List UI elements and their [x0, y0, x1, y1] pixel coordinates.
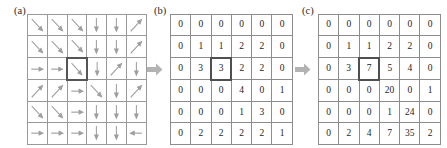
arrow-cell — [28, 80, 48, 102]
number-cell: 2 — [400, 36, 420, 58]
arrow-down-icon — [127, 59, 146, 79]
number-cell: 24 — [400, 102, 420, 123]
cell-value: 4 — [360, 129, 379, 139]
number-cell: 4 — [400, 58, 420, 80]
number-cell: 0 — [339, 80, 359, 102]
arrow-cell — [87, 102, 107, 123]
cell-value: 0 — [191, 86, 210, 96]
number-cell: 0 — [211, 102, 231, 123]
number-cell: 0 — [319, 36, 339, 58]
arrow-cell — [87, 58, 107, 80]
number-cell: 0 — [171, 58, 191, 80]
number-cell: 1 — [272, 80, 292, 102]
number-grid-row: 011220 — [319, 36, 441, 58]
cell-value: 5 — [380, 64, 399, 74]
number-grid-c: 000000011220037540000200100012400247352 — [318, 14, 441, 145]
number-cell: 0 — [171, 102, 191, 123]
cell-value: 1 — [360, 42, 379, 52]
cell-value: 2 — [252, 42, 271, 52]
cell-value: 2 — [400, 42, 419, 52]
arrow-cell — [67, 36, 87, 58]
cell-value: 0 — [252, 20, 271, 30]
arrow-grid-row — [28, 58, 147, 80]
arrow-cell — [107, 15, 127, 36]
cell-value: 0 — [252, 86, 271, 96]
arrow-cell — [47, 123, 67, 144]
number-cell: 0 — [191, 102, 211, 123]
cell-value: 0 — [272, 108, 291, 118]
cell-value: 1 — [191, 42, 210, 52]
arrow-down-icon — [87, 102, 106, 122]
cell-value: 0 — [319, 64, 338, 74]
number-cell: 0 — [211, 80, 231, 102]
number-grid-row: 0001240 — [319, 102, 441, 123]
cell-value: 3 — [191, 64, 210, 74]
cell-value: 0 — [272, 42, 291, 52]
panel-a: (a) — [0, 0, 148, 148]
cell-value: 4 — [400, 64, 419, 74]
number-cell: 2 — [231, 36, 251, 58]
arrow-cell — [87, 36, 107, 58]
arrow-down-icon — [127, 102, 146, 122]
arrow-cell — [126, 15, 146, 36]
cell-value: 1 — [232, 108, 251, 118]
cell-value: 0 — [171, 20, 190, 30]
arrow-grid-row — [28, 80, 147, 102]
number-grid-b-body: 000000011220033220000401000130022221 — [171, 15, 293, 145]
arrow-cell-highlighted — [67, 58, 87, 80]
cell-value: 20 — [380, 86, 399, 96]
cell-value: 0 — [400, 20, 419, 30]
number-cell: 0 — [379, 15, 399, 36]
cell-value: 2 — [339, 129, 358, 139]
arrow-cell — [28, 15, 48, 36]
panel-b: (b) 000000011220033220000401000130022221 — [148, 0, 298, 148]
arrow-cell — [126, 36, 146, 58]
arrow-cell — [67, 102, 87, 123]
cell-value: 0 — [319, 42, 338, 52]
number-cell: 0 — [359, 15, 379, 36]
cell-value: 0 — [360, 86, 379, 96]
number-cell: 0 — [272, 15, 292, 36]
cell-value: 7 — [380, 129, 399, 139]
number-cell: 2 — [379, 36, 399, 58]
number-cell: 0 — [272, 102, 292, 123]
number-cell: 0 — [400, 15, 420, 36]
arrow-grid-row — [28, 36, 147, 58]
arrow-cell — [28, 123, 48, 144]
arrow-cell — [28, 58, 48, 80]
arrow-cell — [47, 102, 67, 123]
number-cell: 1 — [272, 123, 292, 144]
arrow-grid-row — [28, 15, 147, 36]
cell-value: 0 — [339, 86, 358, 96]
cell-value: 1 — [272, 86, 291, 96]
number-cell: 0 — [319, 80, 339, 102]
cell-value: 0 — [319, 20, 338, 30]
arrow-right-icon — [48, 59, 66, 79]
arrow-cell — [107, 123, 127, 144]
number-cell: 4 — [359, 123, 379, 144]
number-cell: 1 — [211, 36, 231, 58]
panel-b-label: (b) — [154, 6, 166, 17]
arrow-down-icon — [107, 37, 126, 57]
arrow-right-icon — [68, 123, 87, 143]
number-cell: 0 — [400, 80, 420, 102]
cell-value: 0 — [380, 20, 399, 30]
arrow-cell — [107, 102, 127, 123]
number-grid-row: 0002001 — [319, 80, 441, 102]
arrow-cell — [47, 58, 67, 80]
arrow-down-right-icon — [48, 37, 67, 57]
number-cell-highlighted: 7 — [359, 58, 379, 80]
cell-value: 0 — [272, 20, 291, 30]
number-cell: 0 — [231, 15, 251, 36]
cell-value: 1 — [339, 42, 358, 52]
arrow-cell — [107, 58, 127, 80]
cell-value: 0 — [171, 108, 190, 118]
number-cell: 1 — [339, 36, 359, 58]
cell-value: 1 — [272, 129, 291, 139]
number-cell: 0 — [339, 102, 359, 123]
number-grid-row: 0247352 — [319, 123, 441, 144]
arrow-down-right-icon — [48, 15, 67, 35]
number-cell: 0 — [319, 123, 339, 144]
cell-value: 0 — [171, 64, 190, 74]
arrow-grid — [27, 14, 147, 145]
